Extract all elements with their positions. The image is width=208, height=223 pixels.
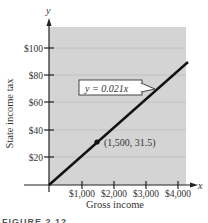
y-axis-arrow-icon bbox=[47, 18, 52, 26]
x-axis-letter: x bbox=[197, 180, 203, 191]
y-tick-label: $100 bbox=[24, 44, 43, 54]
plot-area bbox=[49, 27, 186, 185]
x-tick-labels: $1,000 $2,000 $3,000 $4,000 bbox=[69, 189, 191, 199]
x-axis-arrow-icon bbox=[190, 183, 198, 188]
point-label: (1,500, 31.5) bbox=[104, 137, 156, 149]
x-tick-label: $1,000 bbox=[69, 189, 95, 199]
y-axis-letter: y bbox=[45, 5, 51, 16]
chart: $100 $80 $60 $40 $20 $1,000 $2,000 $3,00… bbox=[0, 0, 208, 223]
data-point bbox=[94, 139, 99, 144]
y-tick-label: $80 bbox=[29, 71, 44, 81]
x-tick-label: $3,000 bbox=[133, 189, 159, 199]
x-tick-label: $2,000 bbox=[101, 189, 127, 199]
figure-caption: FIGURE 2.12 bbox=[2, 217, 67, 223]
x-tick-label: $4,000 bbox=[165, 189, 191, 199]
y-tick-label: $40 bbox=[29, 126, 44, 136]
x-axis-title: Gross income bbox=[70, 199, 160, 210]
equation-label: y = 0.021x bbox=[84, 83, 129, 94]
y-tick-label: $60 bbox=[29, 98, 44, 108]
y-tick-labels: $100 $80 $60 $40 $20 bbox=[24, 44, 43, 163]
y-tick-label: $20 bbox=[29, 153, 44, 163]
y-axis-title: State income tax bbox=[4, 59, 15, 169]
